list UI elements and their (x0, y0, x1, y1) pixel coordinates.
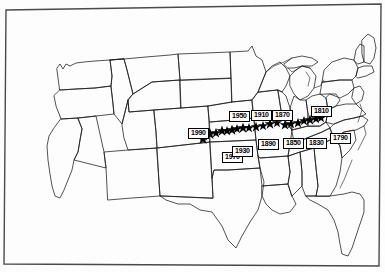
year-label-1890: 1890 (258, 139, 279, 150)
year-label-1810: 1810 (311, 106, 332, 117)
star-1850 (280, 120, 290, 130)
year-label-1790: 1790 (330, 133, 351, 144)
year-label-1910: 1910 (251, 110, 272, 121)
year-label-1930: 1930 (232, 146, 253, 157)
year-label-1950: 1950 (229, 111, 250, 122)
population-center-map-figure: 1990 1970 1930 1950 1910 1890 1870 1850 … (0, 0, 385, 272)
year-label-1990: 1990 (188, 128, 209, 139)
year-label-1870: 1870 (272, 110, 293, 121)
year-label-1830: 1830 (306, 138, 327, 149)
year-label-1850: 1850 (283, 138, 304, 149)
